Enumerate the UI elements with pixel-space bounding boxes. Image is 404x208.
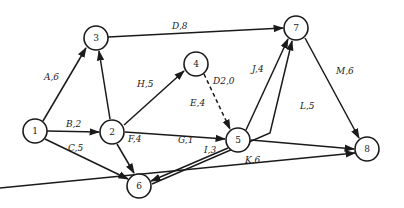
node-label-7: 7 xyxy=(293,23,299,33)
edge-label-f: F,4 xyxy=(127,134,142,144)
edge-label-m: M,6 xyxy=(335,66,354,76)
edge-label-j: J,4 xyxy=(250,64,264,74)
node-label-5: 5 xyxy=(235,135,241,145)
node-label-3: 3 xyxy=(93,33,99,43)
edge-l xyxy=(251,140,354,149)
edge-label-b: B,2 xyxy=(65,119,81,129)
edge-b xyxy=(47,131,99,132)
edge-label-g: G,1 xyxy=(178,135,193,145)
node-label-8: 8 xyxy=(364,144,370,154)
node-7: 7 xyxy=(284,16,308,40)
node-8: 8 xyxy=(355,137,379,161)
node-label-2: 2 xyxy=(109,127,115,137)
node-4: 4 xyxy=(184,52,208,76)
edge-c xyxy=(45,139,128,179)
edge-label-k: K,6 xyxy=(244,155,261,165)
network-diagram: A,6 B,2 C,5 D,8 H,5 E,4 F,4 D2,0 J,4 L,5… xyxy=(0,0,404,208)
node-5: 5 xyxy=(226,128,250,152)
edge-label-c: C,5 xyxy=(68,143,83,153)
edge-h xyxy=(124,71,184,125)
node-2: 2 xyxy=(100,120,124,144)
edge-f xyxy=(117,144,134,173)
edge-label-l: L,5 xyxy=(299,101,315,111)
edge-label-e: E,4 xyxy=(189,98,205,108)
node-6: 6 xyxy=(127,174,151,198)
edge-k xyxy=(0,153,355,188)
edge-g xyxy=(151,148,228,181)
edge-label-d2: D2,0 xyxy=(212,76,235,86)
edge-label-a: A,6 xyxy=(43,72,59,82)
edge-d xyxy=(108,28,283,37)
edge-label-h: H,5 xyxy=(136,79,154,89)
node-1: 1 xyxy=(23,119,47,143)
edge-label-i: I,3 xyxy=(203,145,216,155)
edge-a xyxy=(43,48,86,121)
node-label-1: 1 xyxy=(32,126,38,136)
node-label-4: 4 xyxy=(193,59,199,69)
edge-label-d: D,8 xyxy=(171,21,188,31)
node-label-6: 6 xyxy=(136,181,142,191)
edge-2-3 xyxy=(99,51,110,119)
edge-m xyxy=(305,38,359,138)
node-3: 3 xyxy=(84,26,108,50)
